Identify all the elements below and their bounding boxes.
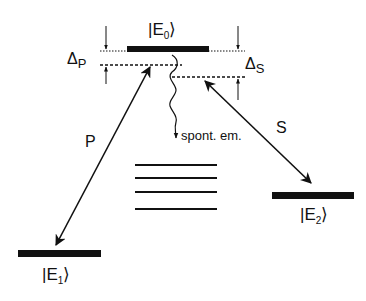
level-e0-bar <box>127 46 209 52</box>
pump-transition-arrow <box>56 67 150 245</box>
level-e2-label: |E2⟩ <box>300 206 328 226</box>
other-levels-group <box>135 165 217 209</box>
level-e1-label: |E1⟩ <box>42 266 70 286</box>
level-diagram-canvas <box>0 0 366 301</box>
ket-suffix: ⟩ <box>63 265 70 284</box>
delta-p-label: ΔP <box>67 51 86 70</box>
level-e1-bar <box>18 250 101 257</box>
ket-prefix: |E <box>300 205 316 224</box>
ket-prefix: |E <box>148 20 164 39</box>
level-e0-label: |E0⟩ <box>148 21 176 41</box>
delta-s-label: ΔS <box>245 56 264 75</box>
ket-suffix: ⟩ <box>321 205 328 224</box>
delta-subscript: P <box>78 56 87 71</box>
ket-suffix: ⟩ <box>169 20 176 39</box>
spontaneous-emission-arrow <box>170 55 178 138</box>
ket-prefix: |E <box>42 265 58 284</box>
level-e2-bar <box>272 192 354 199</box>
spontaneous-emission-label: spont. em. <box>181 129 242 142</box>
pump-label: P <box>85 134 96 150</box>
delta-subscript: S <box>256 61 265 76</box>
delta-symbol: Δ <box>67 50 78 67</box>
stokes-label: S <box>276 120 287 136</box>
delta-symbol: Δ <box>245 55 256 72</box>
